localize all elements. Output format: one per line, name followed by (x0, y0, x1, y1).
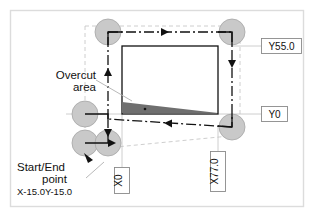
label-x77: X77.0 (209, 152, 226, 192)
start-end-coordinates: X-15.0Y-15.0 (17, 186, 72, 197)
label-y0: Y0 (262, 107, 288, 122)
label-y0-text: Y0 (268, 109, 281, 120)
overcut-label-line2: area (73, 81, 97, 93)
label-x0: X0 (113, 168, 130, 194)
diagram-root: Overcut area Start/End point X-15.0Y-15.… (0, 0, 314, 217)
label-y55: Y55.0 (262, 39, 302, 54)
start-end-label-line2: point (42, 173, 68, 185)
toolpath-diagram: Overcut area Start/End point X-15.0Y-15.… (0, 0, 314, 217)
start-end-label-line1: Start/End (17, 161, 65, 173)
label-x77-text: X77.0 (209, 158, 220, 185)
label-y55-text: Y55.0 (268, 41, 295, 52)
label-x0-text: X0 (113, 174, 124, 187)
overcut-marker-dot (144, 108, 147, 111)
overcut-label-line1: Overcut (56, 69, 97, 81)
